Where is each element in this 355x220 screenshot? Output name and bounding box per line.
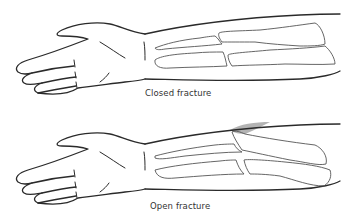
closed-fracture-caption: Closed fracture	[145, 88, 211, 98]
open-fracture-panel: Open fracture	[0, 110, 355, 220]
closed-fracture-panel: Closed fracture	[0, 0, 355, 110]
open-fracture-caption: Open fracture	[150, 201, 210, 211]
